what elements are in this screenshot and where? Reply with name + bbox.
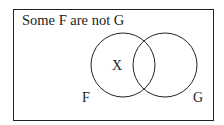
circle-g <box>133 33 197 97</box>
circle-f-label: F <box>82 90 90 106</box>
existence-marker: X <box>112 58 122 74</box>
circle-g-label: G <box>193 90 203 106</box>
circle-f <box>91 33 155 97</box>
